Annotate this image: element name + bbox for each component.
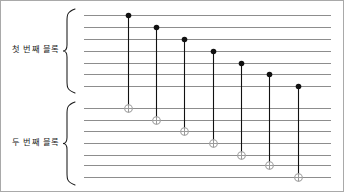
- cnot-2-control-dot: [154, 25, 160, 31]
- block-2-brace: [63, 102, 75, 185]
- cnot-6-control-dot: [267, 72, 273, 78]
- block-braces-group: [63, 9, 75, 185]
- quantum-circuit-figure: 첫 번째 블록 두 번째 블록: [0, 0, 344, 192]
- cnot-7-control-dot: [296, 84, 302, 90]
- block-2-label: 두 번째 블록: [7, 138, 59, 146]
- block-1-label: 첫 번째 블록: [7, 45, 59, 53]
- cnot-1-control-dot: [126, 13, 132, 19]
- circuit-canvas: [1, 1, 344, 192]
- block-1-brace: [63, 9, 75, 93]
- cnot-5-control-dot: [239, 61, 245, 67]
- cnot-4-control-dot: [211, 49, 217, 55]
- cnot-3-control-dot: [182, 37, 188, 43]
- cnot-gate-7: [295, 84, 303, 182]
- qubit-wires-group: [84, 16, 331, 178]
- cnot-gates-group: [125, 13, 303, 182]
- cnot-gate-5: [238, 61, 246, 160]
